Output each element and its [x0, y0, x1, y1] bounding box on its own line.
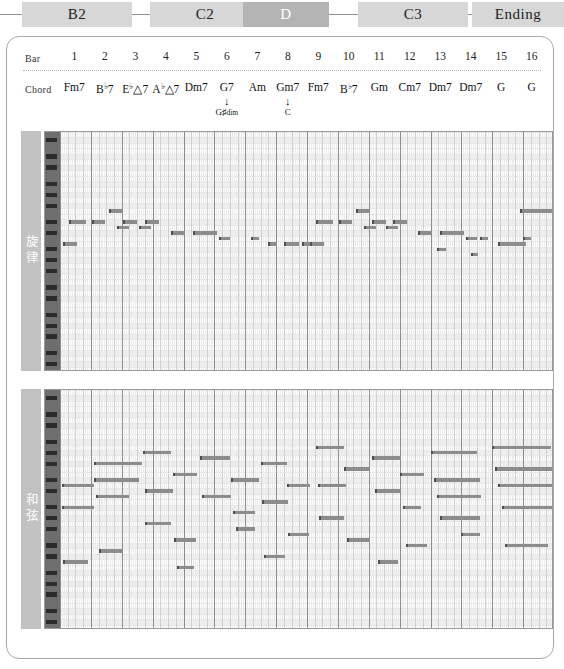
piano-black-key[interactable] — [46, 620, 57, 624]
note-block[interactable] — [69, 220, 86, 223]
note-block[interactable] — [434, 478, 480, 481]
piano-black-key[interactable] — [46, 362, 57, 366]
note-block[interactable] — [319, 516, 344, 519]
piano-black-key[interactable] — [46, 193, 57, 197]
section-tab-c3[interactable]: C3 — [358, 2, 468, 27]
note-block[interactable] — [498, 484, 553, 487]
note-block[interactable] — [316, 220, 333, 223]
note-block[interactable] — [63, 560, 88, 563]
piano-black-key[interactable] — [46, 489, 57, 493]
note-block[interactable] — [262, 500, 288, 503]
note-block[interactable] — [520, 209, 553, 212]
note-block[interactable] — [339, 220, 351, 223]
note-block[interactable] — [233, 511, 255, 514]
note-block[interactable] — [364, 226, 376, 229]
note-block[interactable] — [92, 220, 104, 223]
note-block[interactable] — [109, 209, 123, 212]
piano-black-key[interactable] — [46, 609, 57, 613]
note-block[interactable] — [264, 555, 286, 558]
note-block[interactable] — [393, 220, 407, 223]
note-grid[interactable] — [60, 132, 553, 370]
note-block[interactable] — [261, 462, 287, 465]
note-block[interactable] — [231, 478, 259, 481]
piano-black-key[interactable] — [46, 412, 57, 416]
piano-black-key[interactable] — [46, 582, 57, 586]
piano-black-key[interactable] — [46, 334, 57, 338]
note-block[interactable] — [284, 242, 299, 245]
piano-black-key[interactable] — [46, 182, 57, 186]
note-block[interactable] — [418, 231, 432, 234]
note-block[interactable] — [310, 242, 324, 245]
note-block[interactable] — [173, 473, 198, 476]
note-block[interactable] — [492, 446, 551, 449]
piano-black-key[interactable] — [46, 165, 57, 169]
note-block[interactable] — [117, 226, 129, 229]
note-block[interactable] — [177, 566, 194, 569]
note-block[interactable] — [174, 538, 196, 541]
note-block[interactable] — [99, 549, 124, 552]
section-tab-b2[interactable]: B2 — [22, 2, 132, 27]
piano-black-key[interactable] — [46, 247, 57, 251]
note-block[interactable] — [347, 538, 369, 541]
note-block[interactable] — [143, 451, 171, 454]
note-block[interactable] — [431, 451, 477, 454]
note-block[interactable] — [440, 231, 465, 234]
note-block[interactable] — [498, 242, 526, 245]
piano-black-key[interactable] — [46, 396, 57, 400]
note-block[interactable] — [495, 467, 553, 470]
section-tab-ending[interactable]: Ending — [472, 2, 564, 27]
piano-black-key[interactable] — [46, 571, 57, 575]
piano-black-key[interactable] — [46, 138, 57, 142]
piano-black-key[interactable] — [46, 440, 57, 444]
piano-black-key[interactable] — [46, 258, 57, 262]
note-block[interactable] — [139, 226, 151, 229]
note-block[interactable] — [502, 506, 554, 509]
note-block[interactable] — [219, 237, 230, 240]
note-block[interactable] — [375, 489, 401, 492]
note-block[interactable] — [251, 237, 259, 240]
piano-black-key[interactable] — [46, 296, 57, 300]
note-block[interactable] — [94, 462, 142, 465]
note-block[interactable] — [200, 456, 229, 459]
note-block[interactable] — [62, 484, 94, 487]
note-block[interactable] — [316, 446, 344, 449]
piano-black-key[interactable] — [46, 451, 57, 455]
note-block[interactable] — [471, 253, 479, 256]
note-block[interactable] — [145, 489, 173, 492]
note-block[interactable] — [461, 533, 480, 536]
note-block[interactable] — [268, 242, 276, 245]
note-block[interactable] — [62, 506, 94, 509]
piano-black-key[interactable] — [46, 285, 57, 289]
note-block[interactable] — [202, 495, 231, 498]
piano-black-key[interactable] — [46, 592, 57, 596]
piano-black-key[interactable] — [46, 313, 57, 317]
note-block[interactable] — [344, 467, 369, 470]
note-block[interactable] — [171, 231, 185, 234]
piano-black-key[interactable] — [46, 269, 57, 273]
note-block[interactable] — [94, 478, 139, 481]
piano-black-key[interactable] — [46, 220, 57, 224]
section-tab-d[interactable]: D — [243, 2, 329, 27]
note-block[interactable] — [437, 495, 482, 498]
piano-black-key[interactable] — [46, 543, 57, 547]
piano-black-key[interactable] — [46, 527, 57, 531]
piano-black-key[interactable] — [46, 516, 57, 520]
piano-keyboard-strip[interactable] — [45, 132, 60, 370]
note-block[interactable] — [288, 533, 308, 536]
note-block[interactable] — [63, 242, 77, 245]
piano-roll[interactable] — [44, 389, 553, 629]
note-block[interactable] — [403, 506, 422, 509]
note-block[interactable] — [523, 237, 531, 240]
piano-black-key[interactable] — [46, 351, 57, 355]
note-block[interactable] — [302, 242, 310, 245]
note-block[interactable] — [466, 237, 477, 240]
note-block[interactable] — [193, 231, 218, 234]
note-block[interactable] — [145, 220, 159, 223]
note-block[interactable] — [378, 560, 398, 563]
piano-roll[interactable] — [44, 131, 553, 371]
note-block[interactable] — [372, 456, 400, 459]
piano-keyboard-strip[interactable] — [45, 390, 60, 628]
note-block[interactable] — [287, 484, 310, 487]
note-block[interactable] — [386, 226, 398, 229]
piano-black-key[interactable] — [46, 204, 57, 208]
